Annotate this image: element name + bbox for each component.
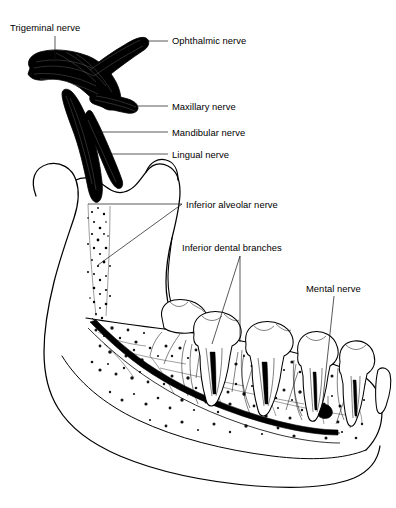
anatomy-illustration: Trigeminal nerve Ophthalmic nerve Maxill… <box>0 0 396 508</box>
anatomy-figure: Trigeminal nerve Ophthalmic nerve Maxill… <box>0 0 396 508</box>
label-ophthalmic-nerve: Ophthalmic nerve <box>172 35 246 46</box>
label-trigeminal-nerve: Trigeminal nerve <box>10 22 80 33</box>
label-inferior-alveolar-nerve: Inferior alveolar nerve <box>186 199 278 210</box>
label-mental-nerve: Mental nerve <box>306 283 361 294</box>
label-lingual-nerve: Lingual nerve <box>172 149 229 160</box>
label-maxillary-nerve: Maxillary nerve <box>172 101 236 112</box>
label-mandibular-nerve: Mandibular nerve <box>172 127 245 138</box>
label-inferior-dental-branches: Inferior dental branches <box>182 242 282 253</box>
